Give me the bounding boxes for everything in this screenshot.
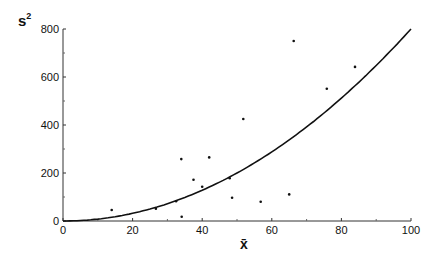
scatter-chart: 0200400600800020406080100 s2 x̄ — [0, 0, 432, 258]
data-point — [259, 201, 262, 204]
x-tick-label: 40 — [196, 224, 208, 236]
axes: 0200400600800020406080100 — [41, 23, 421, 236]
data-point — [155, 208, 158, 211]
data-point — [208, 156, 211, 159]
data-point — [288, 193, 291, 196]
y-tick-label: 400 — [41, 119, 59, 131]
x-tick-label: 60 — [266, 224, 278, 236]
data-point — [228, 177, 231, 180]
data-point — [192, 178, 195, 181]
x-tick-label: 20 — [126, 224, 138, 236]
data-point — [354, 66, 357, 69]
data-point — [175, 200, 178, 203]
y-tick-label: 0 — [53, 215, 59, 227]
y-tick-label: 600 — [41, 71, 59, 83]
x-axis-title: x̄ — [240, 236, 248, 252]
x-tick-label: 0 — [60, 224, 66, 236]
data-point — [326, 88, 329, 91]
y-tick-label: 800 — [41, 23, 59, 35]
curve-path — [63, 29, 411, 221]
x-tick-label: 80 — [335, 224, 347, 236]
fitted-curve — [63, 29, 411, 221]
data-point — [180, 215, 183, 218]
data-point — [180, 158, 183, 161]
x-tick-label: 100 — [402, 224, 420, 236]
y-tick-label: 200 — [41, 167, 59, 179]
data-point — [201, 185, 204, 188]
data-point — [292, 40, 295, 43]
y-axis-title: s2 — [18, 11, 31, 29]
data-point — [110, 209, 113, 212]
data-point — [231, 196, 234, 199]
data-points — [110, 40, 356, 218]
data-point — [242, 118, 245, 121]
